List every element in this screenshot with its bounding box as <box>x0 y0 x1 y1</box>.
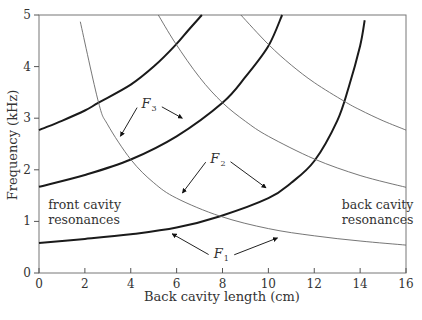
formant-chart: 0246810121416012345 front cavityresonanc… <box>0 0 422 320</box>
x-axis-label: Back cavity length (cm) <box>144 289 300 304</box>
x-tick-label: 12 <box>307 277 322 291</box>
formant-label: F1 <box>213 246 229 263</box>
resonance-curve <box>158 15 406 187</box>
arrow-icon <box>182 162 205 193</box>
region-label: back cavity <box>342 197 415 212</box>
formant-curve <box>39 15 202 130</box>
formant-curve <box>39 15 282 187</box>
region-label: resonances <box>342 212 414 227</box>
y-tick-label: 4 <box>23 60 31 74</box>
x-tick-label: 14 <box>352 277 368 291</box>
arrow-icon <box>162 107 183 118</box>
x-tick-label: 2 <box>81 277 89 291</box>
y-axis-label: Frequency (kHz) <box>5 90 20 201</box>
x-tick-label: 4 <box>127 277 135 291</box>
y-tick-label: 2 <box>23 163 31 177</box>
x-tick-label: 0 <box>35 277 43 291</box>
plot-frame <box>39 15 406 273</box>
y-tick-label: 1 <box>23 214 31 228</box>
arrow-icon <box>234 238 277 255</box>
arrow-icon <box>172 234 209 255</box>
y-tick-label: 0 <box>23 266 31 280</box>
y-tick-label: 3 <box>23 111 31 125</box>
region-label: front cavity <box>48 197 122 212</box>
formant-label: F2 <box>209 151 225 168</box>
arrow-icon <box>120 108 137 137</box>
formant-label: F3 <box>141 96 157 113</box>
x-tick-label: 16 <box>398 277 413 291</box>
region-label: resonances <box>48 212 120 227</box>
arrow-icon <box>231 162 267 188</box>
y-tick-label: 5 <box>23 8 31 22</box>
resonance-curve <box>241 15 406 130</box>
